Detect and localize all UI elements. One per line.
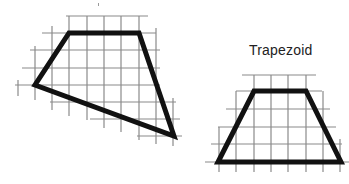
diagram-canvas: [0, 0, 349, 184]
trapezoid-label: Trapezoid: [249, 42, 313, 58]
